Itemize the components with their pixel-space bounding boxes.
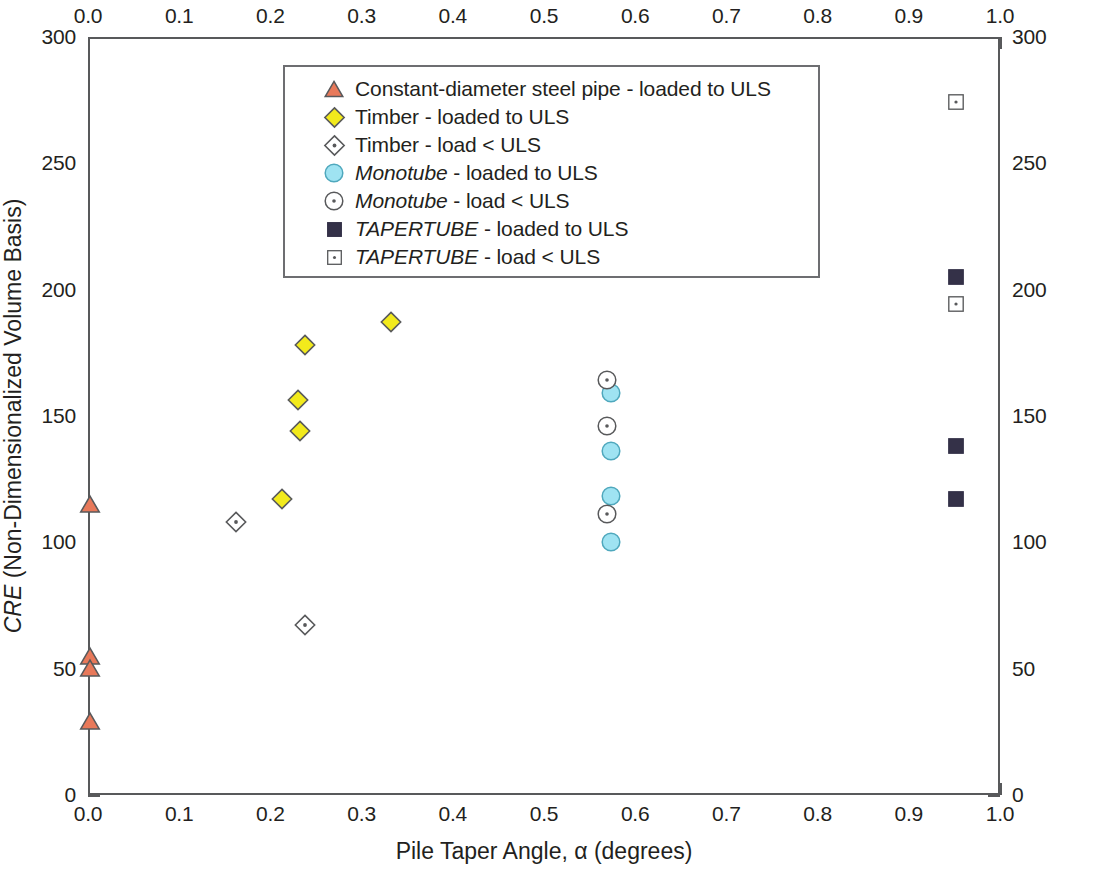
legend-item-label: Monotube - load < ULS [355, 189, 569, 213]
y-tick-label-left: 150 [42, 404, 76, 428]
x-tick-label-top: 1.0 [986, 4, 1015, 28]
y-tick-label-right: 250 [1012, 151, 1046, 175]
legend-marker-circle-open-dot-icon [313, 191, 355, 211]
x-tick-label-top: 0.3 [347, 4, 376, 28]
legend-item-label-rest: - load < ULS [478, 245, 600, 268]
legend-marker-circle-filled-icon [313, 163, 355, 183]
data-point-marker [601, 532, 621, 552]
data-point-marker [947, 437, 965, 455]
scatter-chart-figure: Pile Taper Angle, α (degrees) CRE (Non-D… [0, 0, 1108, 873]
data-point-marker [947, 295, 965, 313]
legend-item-label: Constant-diameter steel pipe - loaded to… [355, 77, 771, 101]
legend-item[interactable]: TAPERTUBE - load < ULS [285, 243, 818, 271]
legend-item-label-rest: - loaded to ULS [448, 161, 598, 184]
x-tick-label-bottom: 0.1 [165, 802, 194, 826]
legend-marker-square-filled-icon [313, 221, 355, 238]
y-tick-label-left: 100 [42, 530, 76, 554]
data-point-marker [289, 420, 310, 441]
legend-item[interactable]: Timber - loaded to ULS [285, 103, 818, 131]
data-point-marker [601, 383, 621, 403]
legend-marker-square-open-dot-icon [313, 249, 355, 266]
y-tick-label-right: 300 [1012, 25, 1046, 49]
x-tick-label-bottom: 0.2 [256, 802, 285, 826]
y-axis-title: CRE (Non-Dimensionalized Volume Basis) [0, 37, 26, 795]
legend-item-label: TAPERTUBE - load < ULS [355, 245, 600, 269]
legend-item-label-rest: Constant-diameter steel pipe - loaded to… [355, 77, 771, 100]
data-point-marker [295, 615, 316, 636]
legend-item-label-italic: Monotube [355, 161, 448, 184]
legend-item[interactable]: Monotube - loaded to ULS [285, 159, 818, 187]
y-tick-label-left: 200 [42, 278, 76, 302]
x-tick-label-bottom: 0.3 [347, 802, 376, 826]
chart-legend: Constant-diameter steel pipe - loaded to… [283, 65, 820, 278]
legend-marker-triangle-filled-icon [313, 79, 355, 99]
data-point-marker [225, 511, 246, 532]
data-point-marker [597, 504, 617, 524]
y-tick-label-right: 100 [1012, 530, 1046, 554]
y-axis-title-italic: CRE [0, 585, 26, 634]
data-point-marker [601, 486, 621, 506]
x-axis-title: Pile Taper Angle, α (degrees) [88, 838, 1000, 865]
data-point-marker [947, 93, 965, 111]
data-point-marker [597, 416, 617, 436]
y-tick-label-right: 50 [1012, 657, 1035, 681]
y-tick-label-left: 50 [53, 657, 76, 681]
x-tick-label-top: 0.7 [712, 4, 741, 28]
x-major-tick-bottom [1000, 783, 1002, 795]
x-tick-label-bottom: 0.7 [712, 802, 741, 826]
x-tick-label-top: 0.1 [165, 4, 194, 28]
legend-item-label-italic: TAPERTUBE [355, 217, 478, 240]
x-tick-label-bottom: 0.9 [895, 802, 924, 826]
legend-marker-diamond-filled-icon [313, 107, 355, 128]
legend-item-label: TAPERTUBE - loaded to ULS [355, 217, 628, 241]
x-tick-label-top: 0.4 [439, 4, 468, 28]
y-tick-label-left: 250 [42, 151, 76, 175]
data-point-marker [947, 490, 965, 508]
legend-marker-diamond-open-dot-icon [313, 135, 355, 156]
x-tick-label-bottom: 0.6 [621, 802, 650, 826]
x-tick-label-top: 0.5 [530, 4, 559, 28]
legend-item-label-rest: - load < ULS [448, 189, 570, 212]
y-major-tick-left [88, 795, 100, 797]
x-tick-label-bottom: 1.0 [986, 802, 1015, 826]
legend-item[interactable]: TAPERTUBE - loaded to ULS [285, 215, 818, 243]
data-point-marker [80, 493, 101, 514]
data-point-marker [80, 645, 101, 666]
legend-item-label: Timber - load < ULS [355, 133, 541, 157]
x-tick-label-top: 0.0 [74, 4, 103, 28]
data-point-marker [80, 711, 101, 732]
y-tick-label-left: 0 [65, 783, 76, 807]
x-tick-label-top: 0.6 [621, 4, 650, 28]
legend-item-label: Monotube - loaded to ULS [355, 161, 598, 185]
x-tick-label-top: 0.9 [895, 4, 924, 28]
data-point-marker [380, 311, 401, 332]
x-axis-title-text: Pile Taper Angle, α (degrees) [396, 838, 693, 864]
x-major-tick-top [1000, 37, 1002, 49]
data-point-marker [287, 390, 308, 411]
y-tick-label-right: 150 [1012, 404, 1046, 428]
x-tick-label-top: 0.8 [803, 4, 832, 28]
data-point-marker [271, 488, 292, 509]
data-point-marker [80, 658, 101, 679]
legend-item-label-italic: Monotube [355, 189, 448, 212]
x-tick-label-bottom: 0.8 [803, 802, 832, 826]
x-tick-label-bottom: 0.4 [439, 802, 468, 826]
legend-item[interactable]: Timber - load < ULS [285, 131, 818, 159]
legend-item-label-rest: Timber - load < ULS [355, 133, 541, 156]
data-point-marker [295, 334, 316, 355]
legend-item[interactable]: Monotube - load < ULS [285, 187, 818, 215]
data-point-marker [947, 268, 965, 286]
legend-item-label-rest: - loaded to ULS [478, 217, 628, 240]
x-tick-label-bottom: 0.5 [530, 802, 559, 826]
y-tick-label-left: 300 [42, 25, 76, 49]
y-axis-title-rest: (Non-Dimensionalized Volume Basis) [0, 199, 26, 585]
data-point-marker [597, 370, 617, 390]
legend-item-label-italic: TAPERTUBE [355, 245, 478, 268]
data-point-marker [601, 441, 621, 461]
x-tick-label-bottom: 0.0 [74, 802, 103, 826]
legend-item-label: Timber - loaded to ULS [355, 105, 569, 129]
y-major-tick-right [988, 795, 1000, 797]
legend-item-label-rest: Timber - loaded to ULS [355, 105, 569, 128]
y-tick-label-right: 0 [1012, 783, 1023, 807]
legend-item[interactable]: Constant-diameter steel pipe - loaded to… [285, 75, 818, 103]
